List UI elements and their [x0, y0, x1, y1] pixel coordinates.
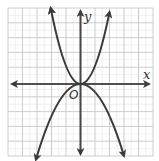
graph: y x O: [0, 0, 159, 161]
origin-label: O: [69, 88, 78, 102]
x-axis-label: x: [143, 67, 151, 82]
y-axis-label: y: [83, 9, 92, 24]
